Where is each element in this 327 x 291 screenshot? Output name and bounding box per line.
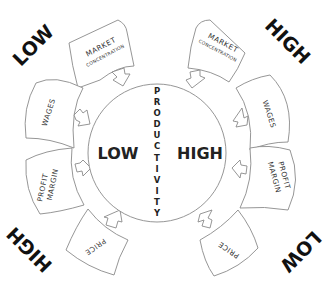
arrow-right-profit-margin xyxy=(232,160,247,178)
axis-letter: D xyxy=(153,119,160,129)
corner-label-top-right: HIGH xyxy=(261,14,315,68)
card-right-profit-margin: PROFIT MARGIN xyxy=(240,146,296,210)
corner-label-bottom-left: HIGH xyxy=(2,223,56,277)
productivity-diagram: LOW HIGH HIGH LOW MARKET CONCENTRATION W… xyxy=(0,0,327,291)
axis-letter: T xyxy=(154,153,160,163)
axis-letter: R xyxy=(154,97,161,107)
card-right-wages: WAGES xyxy=(236,75,290,150)
axis-letter: V xyxy=(154,175,161,185)
productivity-high-label: HIGH xyxy=(177,144,223,163)
arrow-right-price xyxy=(198,210,212,228)
productivity-low-label: LOW xyxy=(98,144,139,163)
card-left-wages: WAGES xyxy=(25,79,83,148)
arrow-left-wages xyxy=(74,109,90,126)
axis-letter: O xyxy=(153,108,160,118)
productivity-circle: LOW HIGH PRODUCTIVITY xyxy=(88,84,226,222)
axis-letter: Y xyxy=(153,208,161,218)
corner-label-bottom-right: LOW xyxy=(276,227,326,277)
arrow-left-price xyxy=(104,210,122,228)
axis-letter: U xyxy=(154,130,161,140)
axis-letter: P xyxy=(154,86,160,96)
axis-letter: I xyxy=(155,164,158,174)
corner-label-top-left: LOW xyxy=(8,20,58,70)
axis-letter: C xyxy=(154,141,160,151)
axis-letter: I xyxy=(155,186,158,196)
arrow-right-market-concentration xyxy=(186,70,205,88)
arrow-right-wages xyxy=(233,108,248,127)
card-left-profit-margin: PROFIT MARGIN xyxy=(26,148,84,214)
arrow-left-market-concentration xyxy=(112,68,130,86)
productivity-axis-label: PRODUCTIVITY xyxy=(153,86,161,218)
axis-letter: T xyxy=(154,197,160,207)
